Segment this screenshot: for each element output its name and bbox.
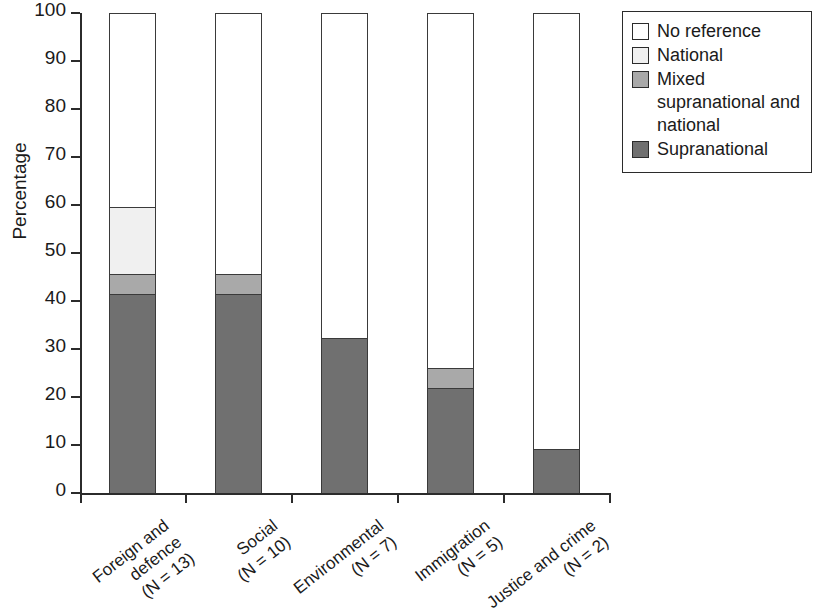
bar-segment-mixed [110, 274, 155, 294]
bar-segment-no-reference [428, 13, 473, 368]
y-tick-0: 0 [71, 492, 80, 494]
x-tick-2 [291, 493, 293, 503]
bar-immigration[interactable] [427, 13, 474, 493]
y-tick-label-20: 20 [20, 384, 66, 403]
bar-foreign-and-defence[interactable] [109, 13, 156, 493]
y-tick-20: 20 [71, 396, 80, 398]
legend-item-national[interactable]: National [632, 44, 802, 67]
bar-segment-mixed [216, 274, 261, 294]
y-tick-label-40: 40 [20, 288, 66, 307]
bar-segment-no-reference [216, 13, 261, 274]
y-tick-label-100: 100 [20, 0, 66, 19]
bar-segment-supranational [110, 294, 155, 493]
bar-segment-mixed [428, 368, 473, 388]
y-tick-label-30: 30 [20, 336, 66, 355]
plot-area: 0 10 20 30 40 50 60 70 80 90 100 [80, 13, 610, 493]
legend-label-mixed: Mixedsupranational andnational [657, 68, 800, 137]
legend-item-no-reference[interactable]: No reference [632, 20, 802, 43]
x-tick-3 [397, 493, 399, 503]
x-tick-0 [80, 493, 82, 503]
bar-segment-no-reference [110, 13, 155, 207]
y-tick-80: 80 [71, 108, 80, 110]
legend-label-line: Mixed [657, 69, 705, 89]
bar-environmental[interactable] [321, 13, 368, 493]
legend-swatch-no-reference-icon [632, 23, 649, 40]
x-tick-1 [185, 493, 187, 503]
y-tick-label-70: 70 [20, 144, 66, 163]
y-tick-70: 70 [71, 156, 80, 158]
y-tick-label-10: 10 [20, 432, 66, 451]
legend-label-national: National [657, 44, 723, 67]
legend-item-supranational[interactable]: Supranational [632, 138, 802, 161]
bar-segment-national [110, 207, 155, 274]
x-tick-4 [503, 493, 505, 503]
y-tick-90: 90 [71, 60, 80, 62]
x-tick-5 [609, 493, 611, 503]
legend-label-supranational: Supranational [657, 138, 768, 161]
legend-label-line: supranational and [657, 92, 800, 112]
bar-segment-no-reference [322, 13, 367, 338]
legend-swatch-national-icon [632, 47, 649, 64]
y-tick-label-90: 90 [20, 48, 66, 67]
y-tick-label-80: 80 [20, 96, 66, 115]
legend-label-line: national [657, 115, 720, 135]
legend-swatch-mixed-icon [632, 71, 649, 88]
x-axis-line [80, 493, 611, 495]
y-tick-100: 100 [71, 12, 80, 14]
y-axis-line [80, 13, 82, 494]
bar-segment-supranational [322, 338, 367, 493]
legend-swatch-supranational-icon [632, 141, 649, 158]
y-tick-50: 50 [71, 252, 80, 254]
bar-segment-no-reference [534, 13, 579, 449]
bar-segment-supranational [428, 388, 473, 493]
chart-legend: No reference National Mixedsupranational… [622, 11, 812, 173]
y-tick-40: 40 [71, 300, 80, 302]
bar-justice-and-crime[interactable] [533, 13, 580, 493]
stacked-bar-chart-figure: Percentage 0 10 20 30 40 50 60 70 80 [0, 0, 826, 614]
bar-segment-supranational [534, 449, 579, 493]
y-tick-30: 30 [71, 348, 80, 350]
y-tick-label-60: 60 [20, 192, 66, 211]
y-tick-10: 10 [71, 444, 80, 446]
legend-label-no-reference: No reference [657, 20, 761, 43]
bar-social[interactable] [215, 13, 262, 493]
y-tick-60: 60 [71, 204, 80, 206]
bar-segment-supranational [216, 294, 261, 493]
legend-item-mixed[interactable]: Mixedsupranational andnational [632, 68, 802, 137]
y-tick-label-0: 0 [20, 480, 66, 499]
y-tick-label-50: 50 [20, 240, 66, 259]
